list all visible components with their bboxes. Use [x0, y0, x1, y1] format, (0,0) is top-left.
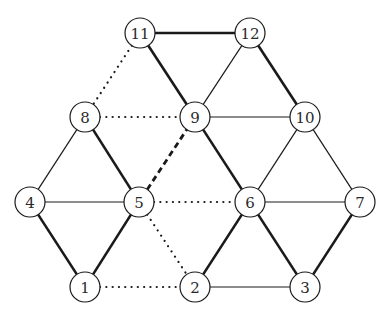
node-4: 4 [15, 187, 45, 217]
node-label: 1 [80, 279, 90, 297]
edge-4-1-thick [38, 215, 77, 275]
graph-diagram: 123456789101112 [0, 0, 389, 316]
node-label: 12 [240, 25, 259, 43]
node-label: 10 [295, 109, 314, 127]
node-5: 5 [124, 187, 154, 217]
node-2: 2 [180, 272, 210, 302]
edge-layer [38, 33, 352, 287]
edge-1-5-thick [93, 215, 131, 275]
node-label: 5 [134, 194, 144, 212]
node-label: 6 [245, 194, 255, 212]
edge-9-6-thick [203, 130, 242, 190]
node-label: 4 [25, 194, 35, 212]
edge-6-3-thick [258, 215, 297, 275]
node-12: 12 [235, 18, 265, 48]
node-1: 1 [70, 272, 100, 302]
edge-10-7-thin [313, 130, 352, 190]
graph-canvas: 123456789101112 [0, 0, 389, 316]
edge-5-2-dotted [147, 215, 186, 275]
edge-11-8-dotted [93, 46, 132, 105]
edge-12-9-thin [203, 46, 242, 105]
edge-6-2-thick [203, 215, 242, 275]
node-10: 10 [290, 102, 320, 132]
edge-5-9-dashed [147, 130, 186, 190]
edge-8-5-thick [93, 130, 131, 190]
node-label: 7 [355, 194, 365, 212]
edge-12-10-thick [258, 46, 297, 105]
edge-11-9-thick [148, 46, 187, 105]
node-layer: 123456789101112 [15, 18, 375, 302]
node-8: 8 [70, 102, 100, 132]
node-label: 8 [80, 109, 90, 127]
node-label: 11 [130, 25, 149, 43]
node-3: 3 [290, 272, 320, 302]
node-label: 9 [190, 109, 200, 127]
node-7: 7 [345, 187, 375, 217]
node-9: 9 [180, 102, 210, 132]
node-11: 11 [125, 18, 155, 48]
node-6: 6 [235, 187, 265, 217]
edge-8-4-thin [38, 130, 77, 190]
node-label: 3 [300, 279, 310, 297]
node-label: 2 [190, 279, 200, 297]
edge-10-6-thin [258, 130, 297, 190]
edge-7-3-thick [313, 215, 352, 275]
